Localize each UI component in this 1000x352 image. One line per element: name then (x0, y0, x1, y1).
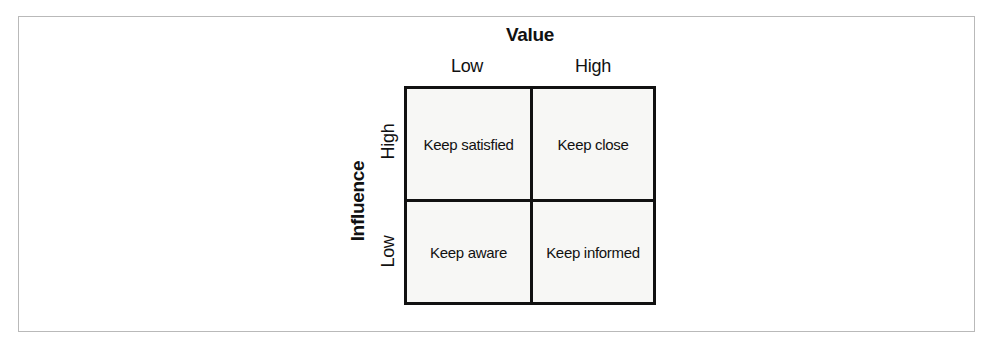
quadrant-cell-low-value-low-influence: Keep aware (407, 199, 530, 302)
x-axis-tick-low: Low (404, 56, 530, 77)
y-axis-tick-low: Low (378, 197, 399, 307)
quadrant-cell-high-value-low-influence: Keep informed (530, 199, 653, 302)
quadrant-cell-low-value-high-influence: Keep satisfied (407, 89, 530, 199)
quadrant-matrix: Keep satisfied Keep close Keep aware Kee… (404, 86, 656, 305)
stakeholder-matrix-figure: Value Low High Influence High Low Keep s… (0, 0, 1000, 352)
x-axis-title: Value (430, 24, 630, 46)
quadrant-cell-high-value-high-influence: Keep close (530, 89, 653, 199)
y-axis-tick-high: High (378, 87, 399, 197)
x-axis-tick-high: High (530, 56, 656, 77)
y-axis-title: Influence (347, 121, 369, 281)
